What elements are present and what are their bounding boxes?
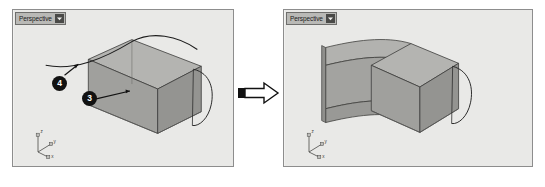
chevron-down-icon[interactable] — [326, 14, 335, 23]
viewport-title-label: Perspective — [290, 14, 323, 23]
viewport-title-before[interactable]: Perspective — [15, 12, 66, 25]
chevron-down-icon[interactable] — [55, 14, 64, 23]
callout-badge-3-label: 3 — [87, 94, 92, 103]
swept-surface-cap — [322, 46, 326, 123]
axis-label-y: y — [54, 139, 57, 144]
viewport-title-label: Perspective — [19, 14, 52, 23]
axis-label-x: x — [51, 154, 54, 159]
axis-label-y: y — [325, 139, 328, 144]
figure-root: Perspective — [0, 0, 545, 187]
viewport-panel-before[interactable]: Perspective — [12, 9, 234, 167]
axis-gizmo-before: z y x — [29, 128, 63, 160]
callout-badge-4-label: 4 — [57, 79, 62, 88]
callout-badge-4: 4 — [52, 76, 67, 91]
viewport-panel-after[interactable]: Perspective — [283, 9, 533, 167]
axis-label-z: z — [312, 129, 315, 134]
viewport-title-after[interactable]: Perspective — [286, 12, 337, 25]
right-arrow-icon — [238, 81, 280, 105]
axis-gizmo-after: z y x — [300, 128, 334, 160]
axis-label-x: x — [322, 154, 325, 159]
axis-label-z: z — [41, 129, 44, 134]
callout-badge-3: 3 — [82, 91, 97, 106]
